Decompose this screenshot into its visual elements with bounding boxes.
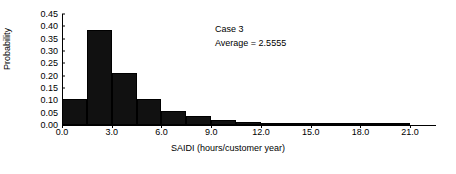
x-tick-mark <box>261 125 262 128</box>
x-tick-mark <box>311 125 312 128</box>
x-tick-label: 18.0 <box>352 128 370 137</box>
y-tick-mark <box>62 38 65 39</box>
y-tick-mark <box>62 75 65 76</box>
annotation-box: Case 3 Average = 2.5555 <box>215 22 286 50</box>
histogram-bar <box>286 123 311 125</box>
y-tick-mark <box>62 26 65 27</box>
x-tick-mark <box>62 125 63 128</box>
x-tick-label: 12.0 <box>252 128 270 137</box>
histogram-bar <box>211 120 236 125</box>
y-tick-label: 0.35 <box>40 34 58 43</box>
y-tick-label: 0.30 <box>40 47 58 56</box>
x-tick-mark <box>360 125 361 128</box>
y-axis-label: Probability <box>3 28 12 70</box>
histogram-bar <box>385 123 410 125</box>
x-axis-label: SAIDI (hours/customer year) <box>0 144 456 153</box>
y-tick-mark <box>62 51 65 52</box>
x-tick-mark <box>161 125 162 128</box>
histogram-bar <box>311 123 336 125</box>
histogram-bar <box>112 73 137 125</box>
x-tick-mark <box>112 125 113 128</box>
histogram-bar <box>137 99 162 125</box>
x-axis-line <box>62 125 436 126</box>
y-tick-label: 0.20 <box>40 71 58 80</box>
x-tick-mark <box>211 125 212 128</box>
x-tick-label: 15.0 <box>302 128 320 137</box>
histogram-bar <box>360 123 385 125</box>
y-tick-label: 0.15 <box>40 84 58 93</box>
y-tick-label: 0.45 <box>40 10 58 19</box>
histogram-bar <box>236 122 261 125</box>
x-tick-label: 6.0 <box>155 128 168 137</box>
x-tick-label: 0.0 <box>56 128 69 137</box>
y-tick-mark <box>62 63 65 64</box>
histogram-bar <box>161 111 186 125</box>
histogram-figure: Probability 0.000.050.100.150.200.250.30… <box>0 0 456 174</box>
y-tick-mark <box>62 88 65 89</box>
x-tick-label: 9.0 <box>205 128 218 137</box>
y-tick-mark <box>62 14 65 15</box>
annotation-line-2: Average = 2.5555 <box>215 36 286 50</box>
y-tick-label: 0.25 <box>40 59 58 68</box>
y-tick-label: 0.40 <box>40 22 58 31</box>
histogram-bar <box>62 99 87 125</box>
histogram-bar <box>186 116 211 125</box>
histogram-bar <box>336 123 361 125</box>
y-tick-label: 0.10 <box>40 96 58 105</box>
x-tick-label: 21.0 <box>401 128 419 137</box>
y-tick-label: 0.05 <box>40 108 58 117</box>
x-tick-label: 3.0 <box>105 128 118 137</box>
x-tick-mark <box>410 125 411 128</box>
annotation-line-1: Case 3 <box>215 22 286 36</box>
histogram-bar <box>87 30 112 125</box>
histogram-bar <box>261 123 286 125</box>
